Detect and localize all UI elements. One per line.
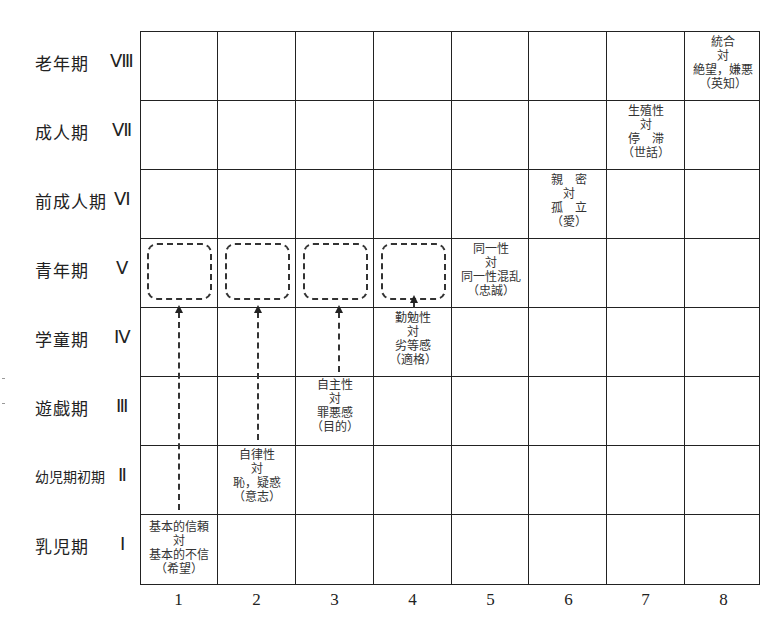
dashed-arrow-up-icon [338,312,340,372]
column-number-2: 2 [218,590,295,610]
margin-mark [2,378,5,379]
grid-line [141,238,759,239]
roman-numeral-8: Ⅷ [110,50,134,72]
dashed-arrow-up-icon [178,312,180,510]
grid-line [141,445,759,446]
roman-numeral-4: Ⅳ [110,326,134,348]
stage-label-8: 老年期 [35,50,105,75]
crisis-cell-2: 自律性 対 恥，疑惑 （意志） [218,448,296,504]
roman-numeral-1: Ⅰ [110,533,134,555]
stage-label-2: 幼児期初期 [35,466,105,486]
crisis-cell-4: 勤勉性 対 劣等感 （適格） [374,311,452,367]
dashed-box-col3 [303,243,368,300]
crisis-cell-8: 統合 対 絶望，嫌悪 （英知） [685,35,761,91]
grid-line [141,100,759,101]
stage-label-5: 青年期 [35,257,105,282]
grid-line [141,514,759,515]
crisis-cell-1: 基本的信頼 対 基本的不信 （希望） [140,520,218,576]
roman-numeral-6: Ⅵ [110,188,134,210]
crisis-cell-5: 同一性 対 同一性混乱 （忠誠） [452,242,530,298]
crisis-cell-3: 自主性 対 罪悪感 （目的） [296,378,374,434]
stage-label-6: 前成人期 [35,188,105,213]
stage-label-7: 成人期 [35,119,105,144]
column-number-7: 7 [607,590,684,610]
grid-line [528,32,529,584]
roman-numeral-7: Ⅶ [110,119,134,141]
dashed-box-col1 [147,243,212,300]
arrow-up-icon [413,302,415,308]
dashed-arrow-up-icon [257,312,259,440]
roman-numeral-2: Ⅱ [110,464,134,486]
crisis-cell-7: 生殖性 対 停 滞 （世話） [607,104,685,160]
column-number-6: 6 [530,590,607,610]
dashed-box-col2 [225,243,290,300]
margin-mark [2,403,5,404]
roman-numeral-5: Ⅴ [110,257,134,279]
column-number-5: 5 [452,590,529,610]
grid-line [373,32,374,584]
crisis-cell-6: 親 密 対 孤 立 （愛） [530,173,608,229]
grid-line [141,307,759,308]
grid-line [141,376,759,377]
grid-line [451,32,452,584]
grid-line [141,169,759,170]
column-number-8: 8 [685,590,762,610]
dashed-box-col4 [381,243,446,300]
stage-label-3: 遊戯期 [35,395,105,420]
stage-label-4: 学童期 [35,326,105,351]
column-number-4: 4 [374,590,451,610]
roman-numeral-3: Ⅲ [110,395,134,417]
stage-label-1: 乳児期 [35,533,105,558]
column-number-1: 1 [140,590,217,610]
column-number-3: 3 [296,590,373,610]
